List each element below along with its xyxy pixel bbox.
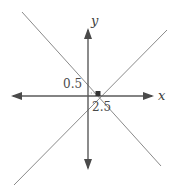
plot-canvas <box>0 0 177 188</box>
intersection-point-marker <box>96 91 101 96</box>
x-axis-left-arrowhead <box>11 92 22 100</box>
x-axis-right-arrowhead <box>143 92 154 100</box>
y-axis-bottom-arrowhead <box>84 159 92 170</box>
x-axis-label: x <box>158 89 165 102</box>
y-intercept-label: 0.5 <box>63 78 82 90</box>
coordinate-plane-figure: y x 0.5 2.5 <box>0 0 177 188</box>
x-intercept-label: 2.5 <box>92 101 111 113</box>
y-axis-label: y <box>91 14 98 27</box>
y-axis-top-arrowhead <box>84 28 92 39</box>
falling-line <box>22 12 161 166</box>
